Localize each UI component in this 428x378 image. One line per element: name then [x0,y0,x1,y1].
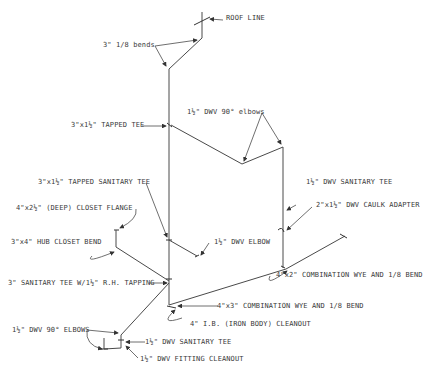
elbow-branch [169,240,199,257]
label-caulk-adapter: 2"x1½" DWV CAULK ADAPTER [316,201,420,210]
label-tapped-tee: 3"x1½" TAPPED TEE [71,121,144,130]
label-combo-wye-4x2: 4"x2" COMBINATION WYE AND 1/8 BEND [276,271,423,280]
label-closet-flange: 4"x2½" (DEEP) CLOSET FLANGE [16,204,133,213]
closet-bend [114,230,169,281]
label-bends-1-8: 3" 1/8 bends [103,41,155,50]
label-dwv-fitting-cleanout: 1½" DWV FITTING CLEANOUT [140,355,244,364]
label-dwv-90-elbows-lower: 1½" DWV 90° ELBOWS [12,326,90,335]
label-dwv-90-elbows-upper: 1½" DWV 90° elbows [187,108,265,117]
label-hub-closet-bend: 3"x4" HUB CLOSET BEND [11,238,102,247]
plumbing-diagram: ROOF LINE 3" 1/8 bends 3"x1½" TAPPED TEE… [0,0,428,378]
label-dwv-sanitary-tee-right: 1½" DWV SANITARY TEE [306,178,392,187]
label-roof-line: ROOF LINE [226,14,265,23]
label-combo-wye-4x3: 4"x3" COMBINATION WYE AND 1/8 BEND [217,302,364,311]
label-tapped-sanitary-tee: 3"x1½" TAPPED SANITARY TEE [38,178,150,187]
label-ib-cleanout: 4" I.B. (IRON BODY) CLEANOUT [190,320,311,329]
label-dwv-sanitary-tee-lower: 1½" DWV SANITARY TEE [145,338,231,347]
label-sanitary-tee-rh-tapping: 3" SANITARY TEE W/1½" R.H. TAPPING [8,279,155,288]
main-stack [166,123,172,305]
label-dwv-elbow: 1½" DWV ELBOW [214,238,270,247]
